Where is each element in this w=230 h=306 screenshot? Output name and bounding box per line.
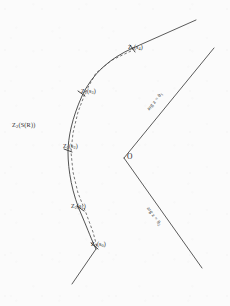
dashed-approximation-curve [71, 51, 131, 247]
curve-name-rest: (S(R)) [18, 121, 35, 128]
point-arg-subscript-s4: 4 [139, 46, 141, 51]
point-arg-open-s2: (s [69, 143, 74, 149]
point-label-s3: Z2(s3) [81, 88, 96, 94]
point-subscript-s1: 2 [75, 205, 77, 210]
point-arg-close-s2: ) [76, 143, 78, 149]
point-arg-close-s1: ) [84, 203, 86, 209]
point-arg-open-s0: (s [97, 241, 102, 247]
origin-label: O [127, 153, 132, 161]
lower-ray-line [124, 158, 202, 268]
point-arg-subscript-s2: 2 [74, 145, 76, 150]
point-subscript-s3: 2 [85, 90, 87, 95]
figure-drawing [0, 0, 230, 306]
figure-canvas: Z2(S(R)) Z2(s4) Z2(s3) Z2(s2) Z2(s1) Z2(… [0, 0, 230, 306]
point-arg-open-s4: (s [134, 44, 139, 50]
point-arg-subscript-s3: 3 [92, 90, 94, 95]
point-arg-close-s0: ) [104, 241, 106, 247]
point-subscript-s0: 2 [95, 243, 97, 248]
upper-ray-line [124, 48, 214, 158]
point-arg-open-s1: (s [77, 203, 82, 209]
point-subscript-s2: 2 [67, 145, 69, 150]
point-label-s1: Z2(s1) [71, 203, 86, 209]
point-arg-subscript-s0: 0 [102, 243, 104, 248]
point-label-s0: Z2(s0) [91, 241, 106, 247]
point-arg-open-s3: (s [87, 88, 92, 94]
point-arg-subscript-s1: 1 [82, 205, 84, 210]
point-arg-close-s3: ) [94, 88, 96, 94]
point-subscript-s4: 2 [132, 46, 134, 51]
point-label-s2: Z2(s2) [63, 143, 78, 149]
curve-name-label: Z2(S(R)) [12, 122, 35, 128]
point-arg-close-s4: ) [141, 44, 143, 50]
lower-tangent-line [72, 249, 96, 284]
point-label-s4: Z2(s4) [128, 44, 143, 50]
